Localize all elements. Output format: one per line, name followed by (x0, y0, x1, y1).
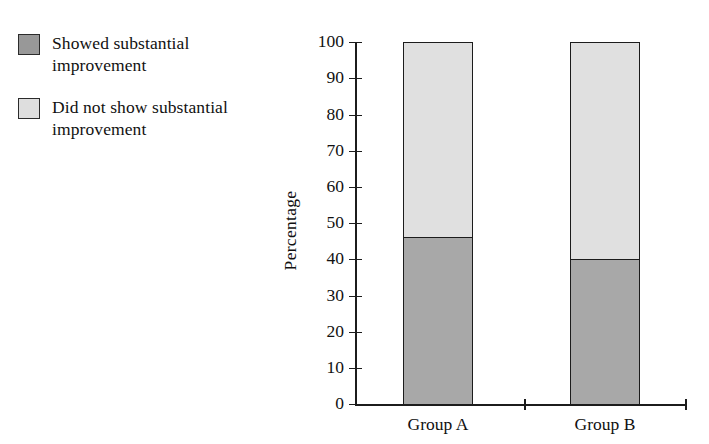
y-tick-label-100: 100 (300, 33, 344, 51)
y-tick-label-80: 80 (300, 106, 344, 124)
y-tick-mark-70 (349, 151, 362, 152)
y-tick-label-50: 50 (300, 214, 344, 232)
y-tick-mark-90 (349, 78, 362, 79)
y-tick-mark-40 (349, 259, 362, 260)
bar-group-a (403, 42, 473, 405)
legend-item-label: Did not show substantial improvement (52, 96, 228, 140)
y-tick-label-60: 60 (300, 178, 344, 196)
y-tick-mark-10 (349, 368, 362, 369)
stacked-bar-chart-figure: Showed substantial improvement Did not s… (0, 0, 709, 444)
chart-legend: Showed substantial improvement Did not s… (18, 32, 280, 160)
bar-segment-group-b-improvement (570, 259, 640, 405)
y-tick-label-0: 0 (300, 395, 344, 413)
x-tick-mark-midpoint (524, 399, 526, 410)
y-tick-mark-30 (349, 296, 362, 297)
y-tick-mark-0 (349, 404, 362, 405)
y-tick-label-20: 20 (300, 323, 344, 341)
plot-area: 100 90 80 70 60 50 40 30 20 10 0 (300, 30, 700, 444)
x-axis-label-group-a: Group A (408, 414, 469, 435)
y-tick-mark-20 (349, 332, 362, 333)
y-tick-label-10: 10 (300, 359, 344, 377)
y-tick-label-70: 70 (300, 142, 344, 160)
bar-segment-group-a-no-improvement (403, 42, 473, 238)
y-tick-mark-100 (349, 42, 362, 43)
y-tick-mark-50 (349, 223, 362, 224)
x-axis-label-group-b: Group B (575, 414, 636, 435)
y-axis-title-text: Percentage (281, 190, 302, 270)
legend-item-showed-improvement: Showed substantial improvement (18, 32, 280, 76)
y-tick-mark-80 (349, 115, 362, 116)
bar-group-b (570, 42, 640, 405)
bar-segment-group-a-improvement (403, 237, 473, 405)
x-tick-mark-end (685, 399, 687, 410)
legend-item-label: Showed substantial improvement (52, 32, 189, 76)
legend-swatch-light-icon (18, 98, 40, 119)
legend-swatch-dark-icon (18, 34, 40, 55)
y-tick-label-40: 40 (300, 250, 344, 268)
bar-segment-group-b-no-improvement (570, 42, 640, 260)
y-tick-label-90: 90 (300, 69, 344, 87)
y-tick-label-30: 30 (300, 287, 344, 305)
y-tick-mark-60 (349, 187, 362, 188)
legend-item-no-improvement: Did not show substantial improvement (18, 96, 280, 140)
